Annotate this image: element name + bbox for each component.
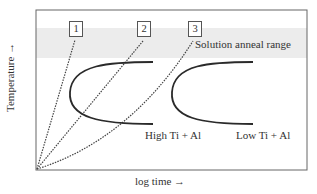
path-1-label-box: 1: [69, 21, 83, 37]
x-axis-text: log time: [135, 175, 171, 187]
diagram-canvas: [0, 0, 317, 194]
x-axis-arrow-icon: →: [174, 175, 185, 187]
cooling-path-3: [37, 41, 193, 169]
y-axis-arrow-icon: →: [4, 43, 16, 54]
y-axis-text: Temperature: [4, 57, 16, 112]
y-axis-label: Temperature →: [4, 43, 16, 112]
band-label: Solution anneal range: [195, 38, 291, 50]
high-ti-al-label: High Ti + Al: [145, 129, 201, 141]
x-axis-label: log time →: [135, 175, 185, 187]
low-ti-al-label: Low Ti + Al: [236, 129, 290, 141]
path-2-label-box: 2: [137, 21, 151, 37]
c-curve-high-ti-al: [70, 62, 153, 124]
cooling-path-2: [37, 41, 143, 169]
c-curve-low-ti-al: [172, 62, 253, 124]
cooling-path-1: [37, 40, 75, 169]
path-3-label-box: 3: [188, 21, 202, 37]
